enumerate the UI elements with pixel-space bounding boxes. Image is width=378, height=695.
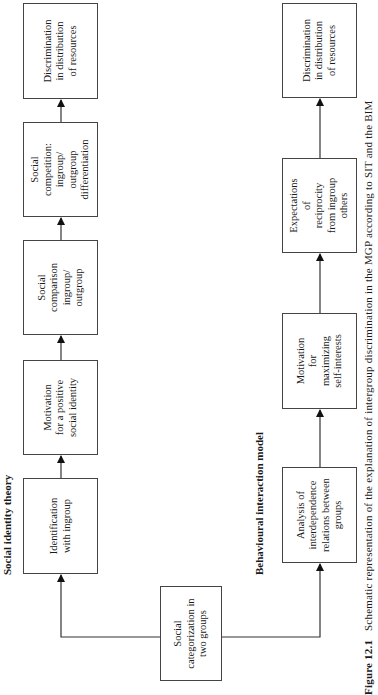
arrow-root-to-analysis [222,564,320,637]
box-text: Analysis of interdependence relations be… [295,478,345,552]
bim-title: Behavioural interaction model [253,432,265,575]
sit-box-competition: Social competition: ingroup/ outgroup di… [23,122,98,217]
box-text: Discrimination in distribution of resour… [301,19,339,82]
bim-box-discrimination: Discrimination in distribution of resour… [282,3,357,98]
figure-caption: Figure 12.1 Schematic representation of … [362,100,374,695]
caption-text: Schematic representation of the explanat… [362,100,374,631]
box-text: Motivation for maximizing self-interests [295,334,345,388]
sit-box-identification: Identification with ingroup [23,478,98,574]
box-text: Motivation for a positive social identit… [42,378,80,437]
sit-title: Social identity theory [1,475,13,575]
caption-label: Figure 12.1 [362,640,374,695]
box-text: Identification with ingroup [48,498,73,555]
arrow-root-to-identification [61,575,160,637]
box-text: Social categorization in two groups [172,598,210,668]
bim-box-expectations: Expectations of reciprocity from ingroup… [282,158,357,253]
box-text: Expectations of reciprocity from ingroup… [288,178,351,234]
bim-box-motivation: Motivation for maximizing self-interests [282,313,357,409]
root-box-social-categorization: Social categorization in two groups [160,586,222,681]
box-text: Social comparison ingroup/ outgroup [36,263,86,312]
bim-box-analysis: Analysis of interdependence relations be… [282,467,357,563]
sit-box-discrimination: Discrimination in distribution of resour… [23,3,98,99]
box-text: Discrimination in distribution of resour… [42,20,80,83]
box-text: Social competition: ingroup/ outgroup di… [29,140,92,200]
sit-box-comparison: Social comparison ingroup/ outgroup [23,240,98,335]
sit-box-motivation: Motivation for a positive social identit… [23,360,98,455]
